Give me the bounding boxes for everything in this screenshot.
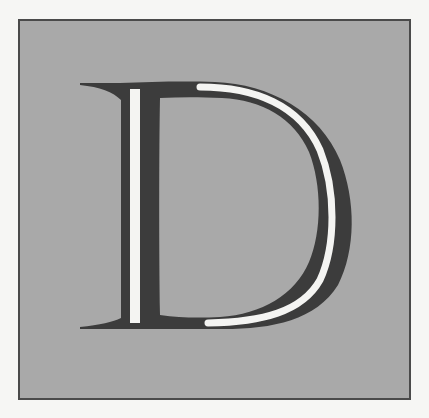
- letter-d-glyph: [0, 0, 429, 418]
- dropcap-canvas: D: [0, 0, 429, 418]
- stem-inline-highlight: [130, 89, 140, 323]
